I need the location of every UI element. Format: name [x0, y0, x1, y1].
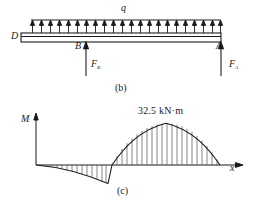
load-label-q: q	[121, 3, 126, 13]
figure-container: q D B A FB FA (b)	[0, 0, 258, 207]
peak-moment-label: 32.5 kN·m	[138, 106, 183, 116]
point-label-a: A	[216, 41, 222, 51]
point-label-b: B	[75, 41, 81, 51]
moment-curve	[36, 123, 220, 183]
reaction-force-b	[84, 42, 89, 76]
axis-label-m: M	[21, 114, 29, 124]
reaction-label-fb-sub: B	[97, 65, 100, 70]
reaction-label-fa: FA	[229, 59, 238, 69]
m-axis	[34, 113, 38, 165]
panel-caption-b: (b)	[115, 83, 127, 93]
reaction-label-fa-sub: A	[235, 65, 238, 70]
point-label-d: D	[11, 31, 18, 41]
hatch-positive-lobe	[117, 123, 217, 165]
panel-caption-c: (c)	[117, 186, 128, 196]
bending-moment-diagram	[0, 103, 258, 193]
beam	[21, 33, 221, 42]
axis-label-x: x	[230, 163, 234, 173]
distributed-load-arrows	[30, 20, 222, 33]
reaction-label-fb: FB	[91, 59, 100, 69]
